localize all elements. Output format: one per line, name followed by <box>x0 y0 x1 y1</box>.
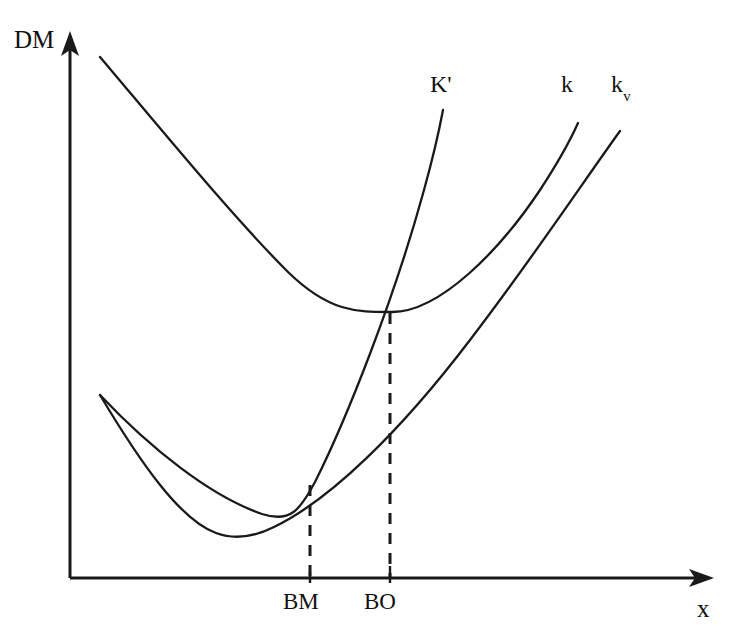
figure-canvas: DM x K' k kv BM BO <box>0 0 734 639</box>
curve-label-k-v-subscript: v <box>623 88 630 104</box>
curve-label-k-v: kv <box>611 72 630 101</box>
tick-label-bm: BM <box>283 590 319 613</box>
curve-label-k: k <box>561 72 573 96</box>
x-axis-ticks <box>310 566 390 583</box>
x-axis-label: x <box>697 596 710 621</box>
y-axis-group <box>61 31 79 578</box>
curve-k-prime <box>100 110 443 517</box>
curve-label-k-v-base: k <box>611 71 623 97</box>
x-axis-group <box>70 569 714 587</box>
curve-k <box>100 57 578 312</box>
tick-label-bo: BO <box>364 590 396 613</box>
curve-label-k-prime: K' <box>430 72 452 96</box>
curve-k-v <box>100 131 620 537</box>
y-axis-label: DM <box>14 27 54 52</box>
